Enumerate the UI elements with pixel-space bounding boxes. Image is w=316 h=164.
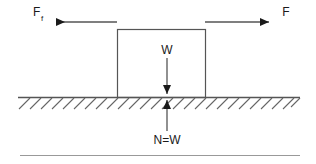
free-body-diagram: F f F W N=W bbox=[0, 0, 316, 164]
diagram-canvas: F f F W N=W bbox=[0, 0, 316, 164]
block-body bbox=[118, 30, 206, 98]
friction-force-label: F bbox=[33, 5, 40, 19]
ground-hatching bbox=[19, 98, 300, 109]
applied-force-label: F bbox=[282, 5, 289, 19]
weight-force-label: W bbox=[161, 43, 173, 57]
normal-force-label: N=W bbox=[154, 133, 182, 147]
friction-force-subscript-label: f bbox=[41, 14, 44, 23]
